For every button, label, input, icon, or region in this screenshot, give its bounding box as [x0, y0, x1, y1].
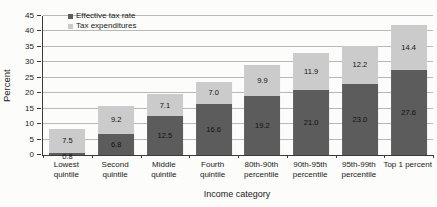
legend-item: Tax expenditures	[68, 22, 136, 30]
category-label: Lowest quintile	[42, 160, 91, 180]
value-label: 16.6	[206, 126, 221, 134]
category-label: Fourth quintile	[188, 160, 237, 180]
stacked-bar: 14.427.6	[391, 25, 427, 155]
effective-tax-rate-segment: 27.6	[391, 70, 427, 155]
y-axis: 051015202530354045	[0, 16, 41, 155]
category-label-text: Second quintile	[91, 160, 140, 180]
x-tick-mark	[287, 155, 288, 158]
value-label: 9.9	[257, 77, 267, 85]
stacked-bar: 9.26.8	[98, 106, 134, 155]
x-tick-mark	[43, 155, 44, 158]
effective-tax-rate-segment: 23.0	[342, 84, 378, 155]
plot-area: 7.50.89.26.87.112.57.016.69.919.211.921.…	[42, 16, 433, 156]
y-tick-label: 45	[25, 12, 34, 20]
stacked-bar: 7.016.6	[196, 82, 232, 155]
legend-item: Effective tax rate	[68, 12, 136, 20]
category-label-text: 95th-99th percentile	[335, 160, 384, 180]
x-tick-mark	[433, 155, 434, 158]
x-tick-mark	[189, 155, 190, 158]
value-label: 7.0	[208, 89, 218, 97]
category-label-text: Middle quintile	[140, 160, 189, 180]
tax-expenditures-segment: 14.4	[391, 25, 427, 69]
legend-swatch-icon	[68, 14, 73, 19]
effective-tax-rate-segment: 21.0	[293, 90, 329, 155]
y-tick-label: 0	[30, 151, 34, 159]
category-label: 90th-95th percentile	[286, 160, 335, 180]
x-axis-title: Income category	[42, 189, 432, 199]
category-label: Second quintile	[91, 160, 140, 180]
tax-rate-chart: Percent 051015202530354045 7.50.89.26.87…	[0, 0, 437, 207]
y-tick-label: 40	[25, 27, 34, 35]
stacked-bar: 11.921.0	[293, 53, 329, 155]
stacked-bar: 7.50.8	[49, 129, 85, 155]
legend-label: Tax expenditures	[76, 22, 136, 30]
y-tick-mark	[37, 46, 41, 47]
tax-expenditures-segment: 12.2	[342, 46, 378, 84]
y-tick-mark	[37, 139, 41, 140]
category-label-text: 80th-90th percentile	[237, 160, 286, 180]
x-tick-mark	[238, 155, 239, 158]
category-label-text: Top 1 percent	[383, 160, 432, 180]
y-tick-label: 20	[25, 89, 34, 97]
value-label: 27.6	[401, 109, 416, 117]
y-tick-label: 15	[25, 105, 34, 113]
value-label: 23.0	[353, 116, 368, 124]
effective-tax-rate-segment: 12.5	[147, 116, 183, 155]
gridline	[43, 30, 433, 31]
tax-expenditures-segment: 11.9	[293, 53, 329, 90]
x-tick-mark	[92, 155, 93, 158]
value-label: 12.5	[158, 132, 173, 140]
category-label: Middle quintile	[140, 160, 189, 180]
legend: Effective tax rateTax expenditures	[68, 12, 136, 30]
value-label: 6.8	[111, 141, 121, 149]
stacked-bar: 7.112.5	[147, 94, 183, 155]
tax-expenditures-segment: 9.2	[98, 106, 134, 134]
legend-swatch-icon	[68, 24, 73, 29]
value-label: 14.4	[401, 44, 416, 52]
value-label: 7.5	[62, 137, 72, 145]
category-label: Top 1 percent	[383, 160, 432, 180]
y-tick-mark	[37, 61, 41, 62]
value-label: 0.8	[62, 153, 72, 161]
legend-label: Effective tax rate	[76, 12, 135, 20]
tax-expenditures-segment: 7.0	[196, 82, 232, 104]
x-tick-mark	[141, 155, 142, 158]
tax-expenditures-segment: 9.9	[244, 65, 280, 96]
effective-tax-rate-segment: 16.6	[196, 104, 232, 155]
category-label-text: 90th-95th percentile	[286, 160, 335, 180]
y-tick-label: 35	[25, 43, 34, 51]
value-label: 9.2	[111, 116, 121, 124]
y-tick-label: 25	[25, 74, 34, 82]
category-label-text: Fourth quintile	[188, 160, 237, 180]
stacked-bar: 12.223.0	[342, 46, 378, 155]
y-tick-mark	[37, 15, 41, 16]
effective-tax-rate-segment: 19.2	[244, 96, 280, 155]
value-label: 11.9	[304, 68, 318, 76]
x-tick-mark	[336, 155, 337, 158]
y-tick-mark	[37, 30, 41, 31]
effective-tax-rate-segment: 6.8	[98, 134, 134, 155]
tax-expenditures-segment: 7.1	[147, 94, 183, 116]
y-tick-mark	[37, 154, 41, 155]
value-label: 21.0	[304, 119, 319, 127]
y-tick-label: 10	[25, 120, 34, 128]
category-label-text: Lowest quintile	[42, 160, 91, 180]
y-tick-mark	[37, 92, 41, 93]
value-label: 7.1	[160, 102, 170, 110]
category-label: 80th-90th percentile	[237, 160, 286, 180]
y-tick-label: 5	[30, 136, 34, 144]
value-label: 12.2	[353, 61, 368, 69]
category-label: 95th-99th percentile	[335, 160, 384, 180]
x-axis-labels: Lowest quintileSecond quintileMiddle qui…	[42, 160, 432, 180]
y-tick-label: 30	[25, 58, 34, 66]
value-label: 19.2	[255, 122, 270, 130]
y-tick-mark	[37, 77, 41, 78]
y-tick-mark	[37, 123, 41, 124]
x-tick-mark	[384, 155, 385, 158]
y-tick-mark	[37, 108, 41, 109]
stacked-bar: 9.919.2	[244, 65, 280, 155]
tax-expenditures-segment: 7.5	[49, 129, 85, 152]
